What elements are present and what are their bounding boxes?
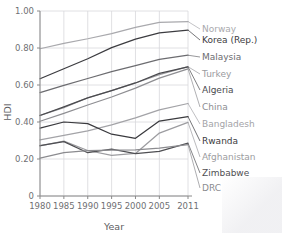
y-tick-label: 0.80 xyxy=(15,43,34,53)
series-line xyxy=(40,145,188,159)
series-label: Malaysia xyxy=(202,52,241,62)
label-leader-line xyxy=(188,55,200,57)
label-leader-line xyxy=(188,22,200,29)
hdi-line-chart: 00.200.400.600.801.001980198519901995200… xyxy=(0,0,282,233)
x-tick-label: 2005 xyxy=(149,201,171,211)
series-line xyxy=(40,55,188,92)
series-label: Bangladesh xyxy=(202,119,255,129)
series-label: Rwanda xyxy=(202,136,238,146)
y-tick-label: 0.40 xyxy=(15,117,34,127)
series-label: Zimbabwe xyxy=(202,168,250,178)
series-label: Turkey xyxy=(201,69,232,79)
grid-layer xyxy=(40,11,188,196)
x-tick-label: 2011 xyxy=(177,201,199,211)
series-label: Norway xyxy=(202,24,237,34)
series-label: Algeria xyxy=(202,85,234,95)
chart-canvas: 00.200.400.600.801.001980198519901995200… xyxy=(0,0,282,233)
y-tick-label: 0.60 xyxy=(15,80,34,90)
series-line xyxy=(40,69,188,121)
y-axis-title: HDI xyxy=(2,103,13,120)
label-leader-line xyxy=(188,143,200,173)
series-layer xyxy=(40,22,188,159)
series-label-layer: NorwayKorea (Rep.)MalaysiaTurkeyAlgeriaC… xyxy=(188,22,257,193)
x-tick-label: 2000 xyxy=(125,201,147,211)
y-tick-label: 0.20 xyxy=(15,154,34,164)
series-line xyxy=(40,22,188,49)
axis-layer xyxy=(37,11,192,199)
tick-label-layer: 00.200.400.600.801.001980198519901995200… xyxy=(15,6,199,211)
x-tick-label: 1980 xyxy=(29,201,51,211)
x-tick-label: 1985 xyxy=(53,201,75,211)
series-label: China xyxy=(202,102,228,112)
label-leader-line xyxy=(188,69,200,107)
y-tick-label: 1.00 xyxy=(15,6,34,16)
series-label: Afghanistan xyxy=(202,152,256,162)
x-tick-label: 1990 xyxy=(77,201,99,211)
label-leader-line xyxy=(188,30,200,40)
y-tick-label: 0 xyxy=(29,191,34,201)
x-tick-label: 1995 xyxy=(101,201,123,211)
series-label: Korea (Rep.) xyxy=(202,35,257,45)
series-label: DRC xyxy=(202,183,221,193)
x-axis-title: Year xyxy=(103,221,124,232)
